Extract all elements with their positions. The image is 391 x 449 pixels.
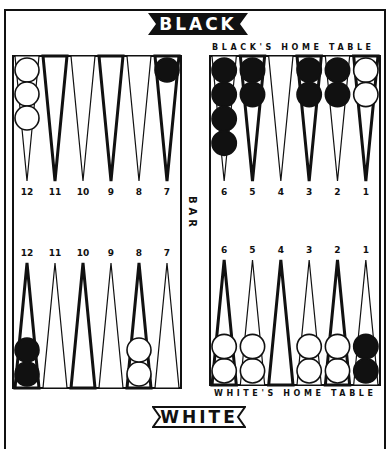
quadrant-bottom-right: 654321 bbox=[212, 245, 378, 385]
point-9[interactable]: 9 bbox=[99, 248, 123, 388]
point-label: 3 bbox=[306, 187, 312, 197]
point-label: 2 bbox=[334, 187, 340, 197]
black-checker[interactable] bbox=[297, 58, 321, 82]
point-label: 8 bbox=[136, 187, 142, 197]
point-12[interactable]: 12 bbox=[15, 56, 39, 197]
black-checker[interactable] bbox=[240, 58, 264, 82]
black-checker[interactable] bbox=[15, 338, 39, 362]
point-8[interactable]: 8 bbox=[127, 56, 151, 197]
black-checker[interactable] bbox=[297, 82, 321, 106]
black-checker[interactable] bbox=[15, 362, 39, 386]
point-6[interactable]: 6 bbox=[212, 56, 236, 197]
quadrant-top-left: 121110987 bbox=[15, 56, 179, 197]
white-checker[interactable] bbox=[240, 334, 264, 358]
point-label: 7 bbox=[164, 187, 170, 197]
point-label: 4 bbox=[278, 187, 284, 197]
white-checker[interactable] bbox=[297, 334, 321, 358]
white-banner: WHITE bbox=[152, 406, 246, 428]
point-label: 1 bbox=[363, 245, 369, 255]
point-5[interactable]: 5 bbox=[240, 56, 264, 197]
point-11[interactable]: 11 bbox=[43, 248, 67, 388]
white-checker[interactable] bbox=[127, 338, 151, 362]
point-label: 7 bbox=[164, 248, 170, 258]
point-label: 4 bbox=[278, 245, 284, 255]
point-label: 12 bbox=[21, 187, 34, 197]
point-label: 2 bbox=[334, 245, 340, 255]
point-label: 6 bbox=[221, 187, 227, 197]
point-3[interactable]: 3 bbox=[297, 245, 321, 385]
black-checker[interactable] bbox=[155, 58, 179, 82]
black-checker[interactable] bbox=[354, 334, 378, 358]
point-label: 12 bbox=[21, 248, 34, 258]
point-label: 5 bbox=[249, 245, 255, 255]
quadrant-top-right: 654321 bbox=[212, 56, 378, 197]
point-label: 3 bbox=[306, 245, 312, 255]
point-label: 8 bbox=[136, 248, 142, 258]
point-label: 11 bbox=[49, 187, 62, 197]
black-checker[interactable] bbox=[354, 359, 378, 383]
white-checker[interactable] bbox=[212, 359, 236, 383]
point-5[interactable]: 5 bbox=[240, 245, 264, 385]
bar-label: BAR bbox=[187, 196, 198, 231]
point-8[interactable]: 8 bbox=[127, 248, 151, 388]
point-label: 9 bbox=[108, 248, 114, 258]
point-label: 1 bbox=[363, 187, 369, 197]
white-checker[interactable] bbox=[354, 58, 378, 82]
black-checker[interactable] bbox=[325, 58, 349, 82]
point-1[interactable]: 1 bbox=[354, 245, 378, 385]
point-label: 9 bbox=[108, 187, 114, 197]
white-checker[interactable] bbox=[297, 359, 321, 383]
white-title: WHITE bbox=[160, 407, 238, 427]
white-checker[interactable] bbox=[127, 362, 151, 386]
quadrant-bottom-left: 121110987 bbox=[15, 248, 179, 388]
point-7[interactable]: 7 bbox=[155, 56, 179, 197]
point-3[interactable]: 3 bbox=[297, 56, 321, 197]
white-home-label: WHITE'S HOME TABLE bbox=[214, 389, 377, 398]
white-checker[interactable] bbox=[240, 359, 264, 383]
white-checker[interactable] bbox=[15, 82, 39, 106]
point-4[interactable]: 4 bbox=[269, 245, 293, 385]
white-checker[interactable] bbox=[354, 82, 378, 106]
point-9[interactable]: 9 bbox=[99, 56, 123, 197]
point-label: 5 bbox=[249, 187, 255, 197]
white-checker[interactable] bbox=[212, 334, 236, 358]
white-checker[interactable] bbox=[325, 334, 349, 358]
black-checker[interactable] bbox=[212, 82, 236, 106]
point-label: 11 bbox=[49, 248, 62, 258]
black-checker[interactable] bbox=[212, 58, 236, 82]
black-checker[interactable] bbox=[212, 107, 236, 131]
white-checker[interactable] bbox=[325, 359, 349, 383]
point-10[interactable]: 10 bbox=[71, 56, 95, 197]
point-label: 10 bbox=[77, 248, 90, 258]
point-4[interactable]: 4 bbox=[269, 56, 293, 197]
black-checker[interactable] bbox=[240, 82, 264, 106]
point-6[interactable]: 6 bbox=[212, 245, 236, 385]
point-12[interactable]: 12 bbox=[15, 248, 39, 388]
white-checker[interactable] bbox=[15, 106, 39, 130]
point-2[interactable]: 2 bbox=[325, 56, 349, 197]
point-2[interactable]: 2 bbox=[325, 245, 349, 385]
point-10[interactable]: 10 bbox=[71, 248, 95, 388]
point-7[interactable]: 7 bbox=[155, 248, 179, 388]
black-checker[interactable] bbox=[325, 82, 349, 106]
point-11[interactable]: 11 bbox=[43, 56, 67, 197]
white-checker[interactable] bbox=[15, 58, 39, 82]
point-label: 6 bbox=[221, 245, 227, 255]
point-label: 10 bbox=[77, 187, 90, 197]
black-checker[interactable] bbox=[212, 131, 236, 155]
point-1[interactable]: 1 bbox=[354, 56, 378, 197]
